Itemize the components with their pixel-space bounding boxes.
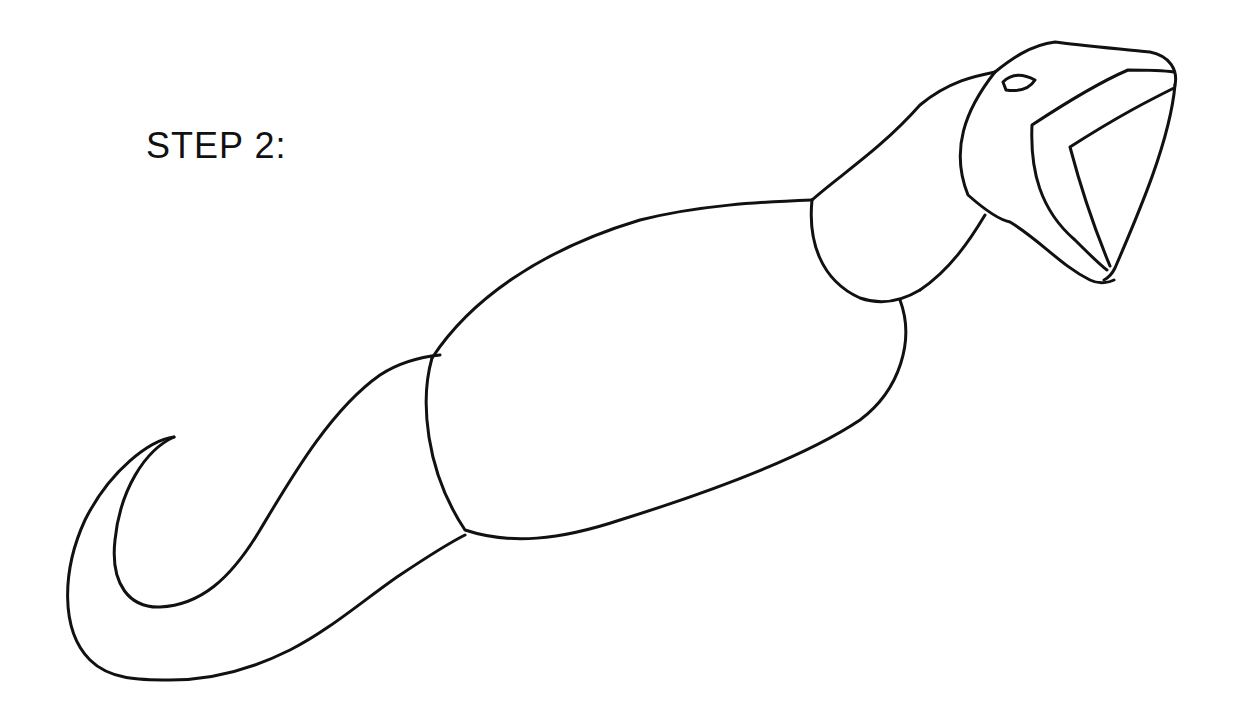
tail-outline [68,355,465,680]
mouth-outline [1032,70,1174,270]
body-outline [426,200,905,539]
eye-outline [1003,75,1035,90]
head-outline [960,42,1175,283]
snake-drawing [0,0,1242,721]
neck-outline [811,72,995,302]
